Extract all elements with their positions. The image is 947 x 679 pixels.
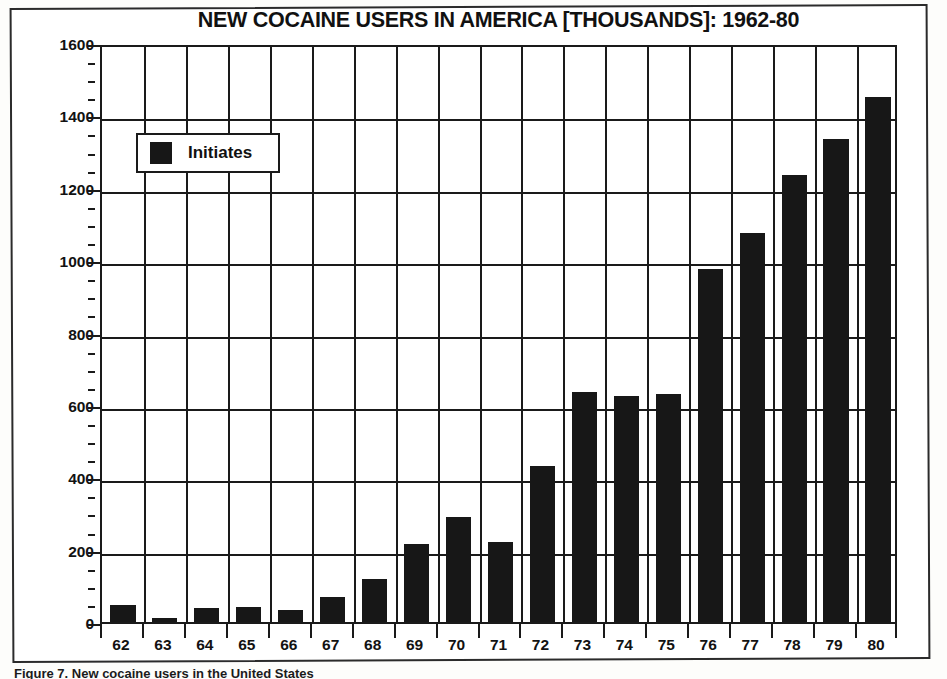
y-tick-minor-1050 — [88, 244, 95, 246]
bar-78 — [782, 175, 807, 622]
y-tick-major-1600 — [88, 45, 100, 47]
bar-77 — [740, 233, 765, 622]
y-tick-label-1000: 1000 — [38, 253, 94, 271]
y-axis-ticks — [88, 45, 102, 624]
x-tick-label-65: 65 — [238, 636, 255, 654]
y-tick-minor-50 — [88, 606, 95, 608]
y-tick-minor-700 — [88, 371, 95, 373]
y-tick-label-1200: 1200 — [38, 181, 94, 199]
y-tick-minor-550 — [88, 425, 95, 427]
x-tick-label-80: 80 — [867, 636, 884, 654]
bar-70 — [446, 517, 471, 622]
y-tick-label-1400: 1400 — [38, 108, 94, 126]
bar-74 — [614, 396, 639, 622]
bar-71 — [488, 542, 513, 622]
bar-76 — [698, 269, 723, 622]
y-tick-minor-100 — [88, 588, 95, 590]
plot-area — [100, 45, 897, 624]
y-tick-minor-750 — [88, 353, 95, 355]
y-tick-minor-250 — [88, 534, 95, 536]
y-tick-minor-1350 — [88, 135, 95, 137]
y-tick-major-1000 — [88, 262, 100, 264]
bar-68 — [362, 579, 387, 622]
y-tick-major-200 — [88, 552, 100, 554]
y-tick-label-400: 400 — [38, 470, 94, 488]
y-tick-minor-1100 — [88, 226, 95, 228]
y-tick-minor-1300 — [88, 154, 95, 156]
y-tick-minor-1150 — [88, 208, 95, 210]
y-tick-minor-850 — [88, 316, 95, 318]
y-tick-major-1200 — [88, 190, 100, 192]
bar-67 — [320, 597, 345, 622]
x-tick-label-69: 69 — [406, 636, 423, 654]
y-tick-minor-900 — [88, 298, 95, 300]
y-tick-minor-500 — [88, 443, 95, 445]
y-tick-major-0 — [88, 624, 100, 626]
y-tick-minor-1500 — [88, 81, 95, 83]
x-tick-label-79: 79 — [825, 636, 842, 654]
bar-72 — [530, 466, 555, 622]
x-tick-label-64: 64 — [196, 636, 213, 654]
bar-69 — [404, 544, 429, 622]
x-tick-label-70: 70 — [448, 636, 465, 654]
y-tick-minor-650 — [88, 389, 95, 391]
y-tick-minor-450 — [88, 461, 95, 463]
bar-73 — [572, 392, 597, 622]
y-tick-label-1600: 1600 — [38, 36, 94, 54]
x-tick-label-62: 62 — [112, 636, 129, 654]
y-axis-labels: 02004006008001000120014001600 — [36, 45, 94, 624]
x-tick-label-68: 68 — [364, 636, 381, 654]
figure-caption: Figure 7. New cocaine users in the Unite… — [14, 666, 914, 679]
x-tick-label-77: 77 — [742, 636, 759, 654]
x-axis-labels: 62636465666768697071727374757677787980 — [100, 636, 897, 660]
y-tick-major-800 — [88, 335, 100, 337]
x-tick-label-71: 71 — [490, 636, 507, 654]
y-tick-minor-1250 — [88, 172, 95, 174]
bar-66 — [278, 610, 303, 622]
legend: Initiates — [136, 133, 280, 173]
legend-label-initiates: Initiates — [188, 143, 252, 163]
x-tick-label-67: 67 — [322, 636, 339, 654]
bar-chart-figure: NEW COCAINE USERS IN AMERICA [THOUSANDS]… — [0, 0, 947, 679]
y-tick-minor-950 — [88, 280, 95, 282]
y-tick-major-1400 — [88, 117, 100, 119]
x-tick-label-76: 76 — [700, 636, 717, 654]
y-tick-label-600: 600 — [38, 398, 94, 416]
y-tick-minor-1550 — [88, 63, 95, 65]
bar-62 — [110, 605, 135, 622]
y-tick-minor-150 — [88, 570, 95, 572]
y-tick-minor-1450 — [88, 99, 95, 101]
bar-80 — [865, 97, 890, 622]
y-tick-label-800: 800 — [38, 326, 94, 344]
y-tick-label-0: 0 — [38, 615, 94, 633]
y-tick-major-600 — [88, 407, 100, 409]
x-tick-label-78: 78 — [784, 636, 801, 654]
y-tick-minor-300 — [88, 515, 95, 517]
x-tick-label-72: 72 — [532, 636, 549, 654]
legend-swatch-initiates — [150, 142, 172, 164]
y-tick-major-400 — [88, 479, 100, 481]
y-tick-minor-350 — [88, 497, 95, 499]
x-tick-label-75: 75 — [658, 636, 675, 654]
x-tick-label-63: 63 — [154, 636, 171, 654]
bar-79 — [823, 139, 848, 622]
y-tick-label-200: 200 — [38, 543, 94, 561]
x-tick-label-73: 73 — [574, 636, 591, 654]
bar-64 — [194, 608, 219, 622]
bar-63 — [152, 618, 177, 622]
bar-65 — [236, 607, 261, 622]
bar-75 — [656, 394, 681, 622]
chart-title: NEW COCAINE USERS IN AMERICA [THOUSANDS]… — [100, 8, 897, 33]
x-tick-label-74: 74 — [616, 636, 633, 654]
x-tick-label-66: 66 — [280, 636, 297, 654]
scanned-page: NEW COCAINE USERS IN AMERICA [THOUSANDS]… — [0, 0, 947, 679]
